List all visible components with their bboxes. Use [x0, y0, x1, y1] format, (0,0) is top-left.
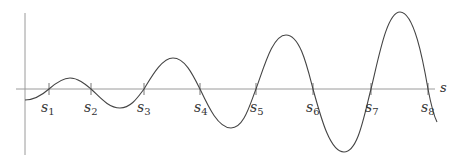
label-s2: s2 — [84, 99, 98, 117]
label-s5: s5 — [250, 99, 264, 117]
oscillation-diagram: s s1 s2 s3 s4 s5 s6 s7 s8 — [0, 0, 466, 162]
label-s7: s7 — [365, 99, 379, 117]
crossing-labels: s1 s2 s3 s4 s5 s6 s7 s8 — [41, 99, 435, 117]
oscillating-curve — [25, 12, 437, 152]
label-s6: s6 — [306, 99, 320, 117]
axis-label-s: s — [440, 80, 447, 95]
label-s8: s8 — [421, 99, 435, 117]
label-s4: s4 — [194, 99, 208, 117]
label-s3: s3 — [137, 99, 151, 117]
label-s1: s1 — [41, 99, 55, 117]
